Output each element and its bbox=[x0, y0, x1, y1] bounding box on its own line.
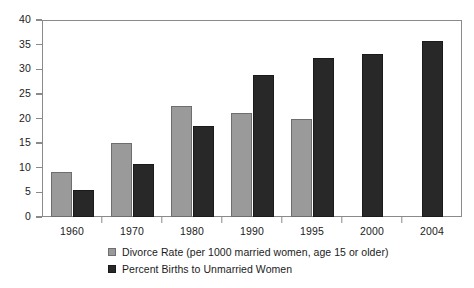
x-axis-tick-label: 1990 bbox=[240, 225, 264, 237]
bar bbox=[253, 75, 274, 217]
y-axis-tick-label: 0 bbox=[1, 210, 31, 222]
bar-chart: 0510152025303540 19601970198019901995200… bbox=[0, 0, 474, 288]
y-axis-tick-label: 30 bbox=[1, 62, 31, 74]
bar bbox=[73, 190, 94, 217]
x-axis-tick-label: 1995 bbox=[300, 225, 324, 237]
x-axis-tick-mark bbox=[401, 217, 402, 223]
x-axis-group: 1970 bbox=[102, 217, 162, 239]
legend-label-unmarried-births: Percent Births to Unmarried Women bbox=[122, 263, 292, 275]
x-axis-group: 2000 bbox=[342, 217, 402, 239]
bar bbox=[291, 119, 312, 218]
legend-label-divorce-rate: Divorce Rate (per 1000 married women, ag… bbox=[122, 246, 389, 258]
x-axis-tick-mark bbox=[341, 217, 342, 223]
bar bbox=[231, 113, 252, 217]
x-axis-group: 1960 bbox=[42, 217, 102, 239]
legend-swatch-divorce-rate bbox=[108, 248, 116, 256]
bar bbox=[193, 126, 214, 217]
x-axis-tick-label: 2000 bbox=[360, 225, 384, 237]
legend: Divorce Rate (per 1000 married women, ag… bbox=[108, 244, 468, 278]
x-axis-tick-mark bbox=[161, 217, 162, 223]
y-axis-tick-label: 15 bbox=[1, 136, 31, 148]
bar bbox=[51, 172, 72, 217]
legend-swatch-unmarried-births bbox=[108, 265, 116, 273]
y-axis-tick-label: 20 bbox=[1, 112, 31, 124]
x-axis-tick-label: 2004 bbox=[420, 225, 444, 237]
bar bbox=[133, 164, 154, 217]
y-axis-tick-label: 5 bbox=[1, 185, 31, 197]
x-axis: 1960197019801990199520002004 bbox=[42, 217, 462, 239]
bar bbox=[171, 106, 192, 217]
bar bbox=[313, 58, 334, 217]
x-axis-group: 1980 bbox=[162, 217, 222, 239]
y-axis-tick-label: 25 bbox=[1, 87, 31, 99]
bar bbox=[111, 143, 132, 217]
bar bbox=[422, 41, 443, 217]
y-axis-tick-label: 10 bbox=[1, 161, 31, 173]
bar-group-container bbox=[42, 20, 462, 217]
x-axis-tick-label: 1970 bbox=[120, 225, 144, 237]
legend-item-unmarried-births: Percent Births to Unmarried Women bbox=[108, 261, 468, 276]
x-axis-tick-label: 1960 bbox=[60, 225, 84, 237]
bar bbox=[362, 54, 383, 217]
x-axis-tick-mark bbox=[281, 217, 282, 223]
y-axis: 0510152025303540 bbox=[0, 0, 42, 238]
y-axis-tick-label: 40 bbox=[1, 13, 31, 25]
x-axis-tick-mark bbox=[221, 217, 222, 223]
x-axis-group: 1995 bbox=[282, 217, 342, 239]
x-axis-group: 1990 bbox=[222, 217, 282, 239]
x-axis-group: 2004 bbox=[402, 217, 462, 239]
x-axis-tick-label: 1980 bbox=[180, 225, 204, 237]
y-axis-tick-label: 35 bbox=[1, 38, 31, 50]
x-axis-tick-mark bbox=[101, 217, 102, 223]
legend-item-divorce-rate: Divorce Rate (per 1000 married women, ag… bbox=[108, 244, 468, 259]
